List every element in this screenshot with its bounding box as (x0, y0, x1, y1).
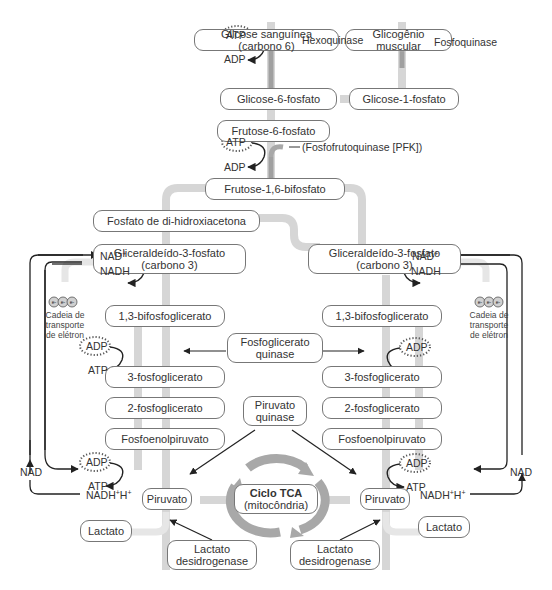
adp-label: ADP (406, 457, 428, 469)
node-fosfoglicerato-quinase: Fosfoglicerato quinase (227, 333, 323, 363)
node-label: Fosfato de di-hidroxiacetona (107, 215, 246, 227)
svg-text:e-: e- (478, 299, 483, 305)
nad-label-left: NAD (20, 466, 42, 478)
node-label: (carbono 3) (356, 259, 412, 271)
etc-line: Cadeia de (40, 310, 90, 320)
nad-label-right: NAD (510, 466, 532, 478)
node-piruvato-quinase: Piruvato quinase (243, 396, 307, 426)
plus-sign: + (127, 489, 131, 496)
node-label: Fosfoenolpiruvato (338, 433, 425, 445)
node-3-fosfoglicerato-right: 3-fosfoglicerato (322, 366, 442, 388)
node-2-fosfoglicerato-right: 2-fosfoglicerato (322, 397, 442, 419)
node-lactato-left: Lactato (80, 520, 132, 542)
enzyme-hexoquinase: Hexoquinase (302, 34, 363, 46)
node-label: Glicose-6-fosfato (237, 93, 320, 105)
etc-label-right: Cadeia de transporte de elétron (464, 310, 514, 340)
nad-text: NAD (412, 250, 434, 262)
node-frutose-1-6-bifosfato: Frutose-1,6-bifosfato (205, 178, 345, 200)
node-label: Ciclo TCA (250, 487, 303, 499)
nadh-text: NADH (420, 489, 450, 501)
svg-text:e-: e- (52, 299, 57, 305)
node-label: Lactato (88, 525, 124, 537)
etc-line: Cadeia de (464, 310, 514, 320)
node-1-3-bifosfoglicerato-right: 1,3-bifosfoglicerato (322, 305, 442, 327)
nad-loop-right (436, 255, 522, 494)
adp-label: ADP (86, 456, 108, 468)
node-3-fosfoglicerato-left: 3-fosfoglicerato (105, 366, 225, 388)
glycolysis-diagram: e-e-e- e-e-e- Glicose sanguínea (carbono… (0, 0, 552, 590)
node-fosfato-dihidroxiacetona: Fosfato de di-hidroxiacetona (93, 210, 260, 232)
etc-line: de elétron (40, 330, 90, 340)
node-label: 3-fosfoglicerato (127, 371, 202, 383)
adp-label: ADP (224, 161, 246, 173)
node-label: 1,3-bifosfoglicerato (119, 310, 212, 322)
node-label: Piruvato (147, 493, 187, 505)
plus-sign: + (434, 250, 438, 257)
svg-text:e-: e- (61, 299, 66, 305)
nad-plus-label-right: NAD+ (412, 250, 438, 262)
adp-label: ADP (406, 341, 428, 353)
node-label: Piruvato (365, 493, 405, 505)
enzyme-fosfoquinase: Fosfoquinase (434, 36, 497, 48)
node-label: 2-fosfoglicerato (127, 402, 202, 414)
nad-text: NAD (100, 250, 122, 262)
node-piruvato-right: Piruvato (360, 488, 410, 510)
nadh-text: NADH (86, 489, 116, 501)
node-fosfoenolpiruvato-left: Fosfoenolpiruvato (105, 428, 225, 450)
etc-line: de elétron (464, 330, 514, 340)
node-2-fosfoglicerato-left: 2-fosfoglicerato (105, 397, 225, 419)
node-fosfoenolpiruvato-right: Fosfoenolpiruvato (322, 428, 442, 450)
node-lactato-desidrogenase-left: Lactato desidrogenase (167, 540, 257, 570)
plus-sign: + (122, 250, 126, 257)
node-lactato-right: Lactato (418, 516, 470, 538)
nad-plus-label-left: NAD+ (100, 250, 126, 262)
svg-text:e-: e- (496, 299, 501, 305)
node-label: 3-fosfoglicerato (344, 371, 419, 383)
node-ciclo-tca: Ciclo TCA (mitocôndria) (234, 484, 318, 514)
node-glicose-6-fosfato: Glicose-6-fosfato (220, 88, 337, 110)
plus-sign: + (461, 489, 465, 496)
adp-label: ADP (86, 340, 108, 352)
nadh-h-label-left: NADH+H+ (86, 489, 132, 501)
nadh-label-left: NADH (100, 265, 130, 277)
nadh-label-right: NADH (411, 265, 441, 277)
etc-line: transporte (464, 320, 514, 330)
etc-label-left: Cadeia de transporte de elétron (40, 310, 90, 340)
node-label: (carbono 3) (141, 259, 197, 271)
atp-label: ATP (226, 136, 246, 148)
node-label: desidrogenase (299, 555, 371, 567)
node-label: 2-fosfoglicerato (344, 402, 419, 414)
node-label: Lactato (426, 521, 462, 533)
svg-text:e-: e- (487, 299, 492, 305)
node-label: (mitocôndria) (244, 499, 308, 511)
node-label: quinase (256, 348, 295, 360)
node-1-3-bifosfoglicerato-left: 1,3-bifosfoglicerato (105, 305, 225, 327)
svg-text:e-: e- (70, 299, 75, 305)
node-label: quinase (256, 411, 295, 423)
node-lactato-desidrogenase-right: Lactato desidrogenase (290, 540, 380, 570)
node-label: Gliceraldeído-3-fosfato (114, 247, 225, 259)
node-glicose-1-fosfato: Glicose-1-fosfato (349, 88, 459, 110)
node-label: Glicogênio muscular (350, 28, 447, 52)
node-piruvato-left: Piruvato (142, 488, 192, 510)
nadh-h-label-right: NADH+H+ (420, 489, 466, 501)
node-label: 1,3-bifosfoglicerato (336, 310, 429, 322)
node-label: desidrogenase (176, 555, 248, 567)
node-label: Glicose-1-fosfato (362, 93, 445, 105)
node-label: Fosfoenolpiruvato (121, 433, 208, 445)
etc-line: transporte (40, 320, 90, 330)
node-label: Lactato (194, 543, 230, 555)
node-label: Piruvato (255, 399, 295, 411)
atp-label: ATP (226, 29, 246, 41)
adp-label: ADP (224, 53, 246, 65)
node-label: Frutose-1,6-bifosfato (224, 183, 326, 195)
enzyme-pfk: (Fosfofrutoquinase [PFK]) (302, 141, 422, 153)
node-label: Lactato (317, 543, 353, 555)
node-label: Fosfoglicerato (240, 336, 309, 348)
